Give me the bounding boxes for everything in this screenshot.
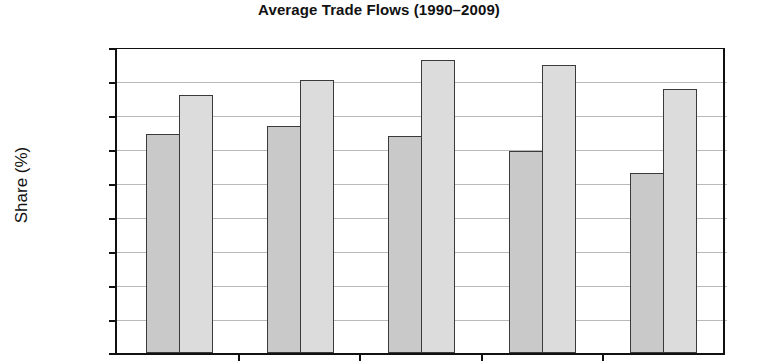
- y-tick-40: [109, 218, 117, 220]
- y-tick-50: [109, 184, 117, 186]
- bar-group-1-series-a: [146, 134, 180, 353]
- y-tick-90: [109, 48, 117, 50]
- plot-right-border: [723, 48, 725, 355]
- bar-group-2-series-a: [267, 126, 301, 353]
- plot-area: [115, 48, 725, 353]
- y-axis-title: Share (%): [12, 70, 32, 300]
- bar-group-4-series-a: [509, 151, 543, 353]
- y-tick-30: [109, 252, 117, 254]
- y-tick-70: [109, 116, 117, 118]
- bar-group-4-series-b: [542, 65, 576, 353]
- bar-group-2-series-b: [300, 80, 334, 353]
- y-tick-60: [109, 150, 117, 152]
- y-tick-20: [109, 286, 117, 288]
- y-tick-10: [109, 320, 117, 322]
- y-tick-80: [109, 82, 117, 84]
- x-axis-line: [115, 353, 725, 355]
- x-tick-4: [602, 353, 604, 361]
- bar-group-5-series-a: [630, 173, 664, 353]
- bar-group-3-series-a: [388, 136, 422, 353]
- bar-group-3-series-b: [421, 60, 455, 353]
- x-tick-1: [238, 353, 240, 361]
- x-tick-2: [359, 353, 361, 361]
- x-tick-3: [481, 353, 483, 361]
- bar-group-1-series-b: [179, 95, 213, 353]
- chart-title: Average Trade Flows (1990–2009): [0, 1, 758, 18]
- bar-group-5-series-b: [663, 89, 697, 353]
